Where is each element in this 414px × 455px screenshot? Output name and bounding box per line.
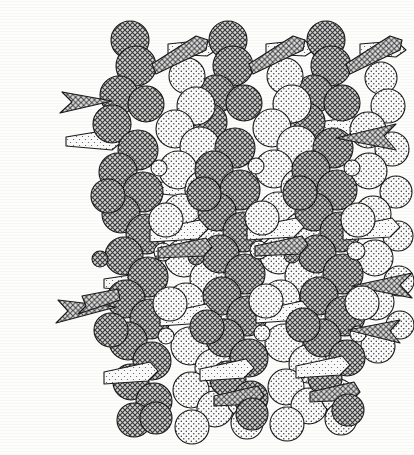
- molecular-model-svg: [0, 0, 414, 455]
- molecular-model-figure: [0, 0, 414, 455]
